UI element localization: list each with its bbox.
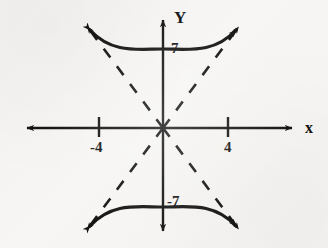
y-vertex-label-neg7: -7 bbox=[167, 194, 180, 209]
y-axis-label: Y bbox=[174, 9, 186, 26]
y-vertex-label-pos7: 7 bbox=[171, 41, 179, 56]
asymptote-upper-left bbox=[88, 27, 164, 128]
hyperbola-graph-figure: Y x -4 4 7 -7 bbox=[0, 0, 328, 248]
graph-canvas bbox=[0, 0, 328, 248]
x-axis-label: x bbox=[305, 120, 313, 136]
x-tick-label-pos4: 4 bbox=[224, 140, 232, 155]
x-tick-label-neg4: -4 bbox=[90, 140, 103, 155]
